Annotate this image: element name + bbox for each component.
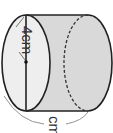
cylinder-diagram: 4cm cm: [0, 0, 113, 133]
center-point: [24, 60, 28, 64]
circumference-label: cm: [46, 116, 63, 133]
radius-label: 4cm: [19, 26, 36, 54]
